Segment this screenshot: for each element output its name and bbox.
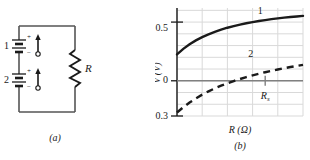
panel-a-circuit: + − 1 + − 2 — [0, 0, 155, 160]
emf-arrow-2-head — [35, 68, 40, 74]
panel-b-caption: (b) — [220, 140, 260, 151]
resistor-label: R — [84, 62, 92, 74]
y-tick-label-zero: 0 — [163, 74, 168, 85]
chart-series-2-dashed — [177, 65, 303, 113]
battery-2-plus-sign: + — [27, 67, 31, 75]
battery-1-plus-sign: + — [27, 33, 31, 41]
rs-annotation-label: Rs — [260, 90, 270, 104]
panel-b-chart: 0.5 0 −0.3 V (V) 1 2 Rs R (Ω) (b) — [155, 0, 310, 160]
chart-x-axis-title: R (Ω) — [228, 124, 252, 136]
battery-cell-1-icon — [12, 40, 26, 52]
y-tick-label-upper: 0.5 — [156, 22, 169, 33]
chart-series-1-label: 1 — [258, 5, 263, 16]
chart-gridlines-horizontal — [177, 10, 303, 116]
emf-arrow-1-icon — [35, 34, 40, 56]
chart-y-axis-title: V (V) — [155, 62, 163, 84]
source-1-label: 1 — [4, 40, 9, 51]
resistor-body — [70, 50, 80, 87]
rs-annotation-sub: s — [267, 95, 270, 103]
battery-2-minus-sign: − — [27, 83, 31, 91]
chart-series-2-label: 2 — [248, 48, 253, 59]
battery-cell-2-icon — [12, 74, 26, 86]
chart-svg: 0.5 0 −0.3 V (V) 1 2 Rs R (Ω) — [155, 0, 310, 160]
emf-arrow-1-node — [36, 52, 40, 56]
battery-1-minus-sign: − — [27, 49, 31, 57]
figure-container: + − 1 + − 2 — [0, 0, 310, 160]
source-2-label: 2 — [4, 74, 9, 85]
emf-arrow-1-head — [35, 34, 40, 40]
emf-arrow-2-node — [36, 86, 40, 90]
emf-arrow-2-icon — [35, 68, 40, 90]
rs-annotation-base: R — [260, 90, 267, 101]
resistor-zigzag-icon — [70, 50, 80, 87]
circuit-diagram-svg: + − 1 + − 2 — [0, 0, 155, 160]
panel-a-caption: (a) — [35, 132, 75, 143]
y-tick-label-lower: −0.3 — [155, 110, 168, 121]
